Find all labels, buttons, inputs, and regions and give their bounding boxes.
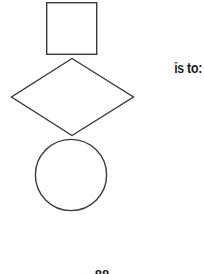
relation-label: is to: (156, 60, 202, 76)
shape-stack-svg (0, 0, 150, 230)
page-number-marker: 88 (0, 268, 204, 274)
analogy-question-canvas: is to: 88 (0, 0, 204, 274)
circle-shape (35, 139, 106, 210)
square-shape (47, 3, 97, 55)
shape-sequence (0, 0, 150, 230)
diamond-shape (12, 59, 134, 136)
